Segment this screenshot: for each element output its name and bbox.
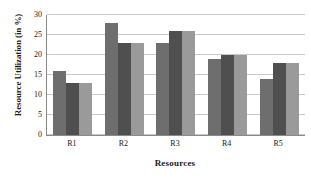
bar	[260, 79, 273, 135]
x-axis-tick-label: R5	[258, 139, 298, 148]
x-axis-tick-labels: R1R2R3R4R5	[46, 139, 304, 148]
bar	[208, 59, 221, 135]
x-axis-tick-label: R4	[207, 139, 247, 148]
bar	[182, 31, 195, 135]
bar	[53, 71, 66, 135]
y-axis-tick-label: 20	[22, 51, 42, 59]
bar-group	[260, 15, 299, 135]
x-axis-tick-label: R2	[103, 139, 143, 148]
bar	[286, 63, 299, 135]
y-axis-tick-label: 0	[22, 131, 42, 139]
y-axis-tick-label: 15	[22, 71, 42, 79]
bar	[66, 83, 79, 135]
bar-chart: Resource Utilization (in %) 051015202530…	[0, 0, 311, 180]
x-axis-title: Resources	[46, 158, 304, 168]
bar	[221, 55, 234, 135]
bar	[118, 43, 131, 135]
x-axis-tick-label: R3	[155, 139, 195, 148]
plot-area	[46, 15, 305, 136]
bar	[273, 63, 286, 135]
y-axis-tick-label: 5	[22, 111, 42, 119]
y-axis-tick-label: 30	[22, 11, 42, 19]
bar	[131, 43, 144, 135]
bar	[105, 23, 118, 135]
bar	[156, 43, 169, 135]
bar-group	[156, 15, 195, 135]
bar	[169, 31, 182, 135]
y-axis-tick-labels: 051015202530	[22, 0, 42, 180]
y-axis-tick-label: 25	[22, 31, 42, 39]
bar	[79, 83, 92, 135]
x-axis-tick-label: R1	[52, 139, 92, 148]
y-axis-tick-label: 10	[22, 91, 42, 99]
bar-group	[105, 15, 144, 135]
bar-group	[53, 15, 92, 135]
bar-group	[208, 15, 247, 135]
bars-layer	[47, 15, 305, 135]
bar	[234, 55, 247, 135]
